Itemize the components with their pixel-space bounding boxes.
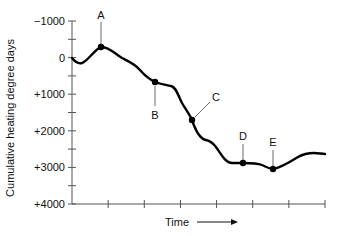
marker-e xyxy=(270,166,276,172)
y-tick-label: +2000 xyxy=(34,125,65,137)
marker-d xyxy=(240,160,246,166)
label-b: B xyxy=(151,109,158,121)
y-tick-label: −1000 xyxy=(34,15,65,27)
y-axis-label: Cumulative heating degree days xyxy=(4,39,16,197)
y-tick-label: +4000 xyxy=(34,198,65,210)
label-c: C xyxy=(212,91,220,103)
annotation-d: D xyxy=(239,130,247,166)
heating-degree-days-chart: −10000+1000+2000+3000+4000 Cumulative he… xyxy=(0,0,341,236)
y-tick-label: +3000 xyxy=(34,161,65,173)
annotation-e: E xyxy=(269,136,276,172)
marker-a xyxy=(98,44,104,50)
y-tick-label: 0 xyxy=(59,52,65,64)
annotation-a: A xyxy=(97,9,105,50)
marker-b xyxy=(152,79,158,85)
label-a: A xyxy=(97,9,105,21)
marker-c xyxy=(189,117,195,123)
time-arrow-icon xyxy=(197,219,238,225)
annotation-c: C xyxy=(189,91,220,123)
x-axis-label: Time xyxy=(165,216,189,228)
y-tick-label: +1000 xyxy=(34,88,65,100)
annotation-b: B xyxy=(151,79,158,121)
label-e: E xyxy=(269,136,276,148)
data-curve xyxy=(72,47,325,169)
label-d: D xyxy=(239,130,247,142)
y-axis-tick-labels: −10000+1000+2000+3000+4000 xyxy=(34,15,65,210)
